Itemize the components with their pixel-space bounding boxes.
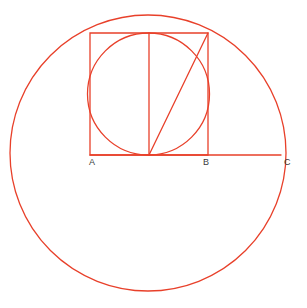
label-point-b: B [203, 157, 209, 167]
label-point-a: A [89, 157, 95, 167]
diagonal-line [149, 33, 208, 155]
geometry-figure: A B C [0, 0, 307, 308]
label-point-c: C [284, 157, 291, 167]
geometry-canvas: A B C [0, 0, 307, 308]
outer-circle [10, 15, 286, 291]
